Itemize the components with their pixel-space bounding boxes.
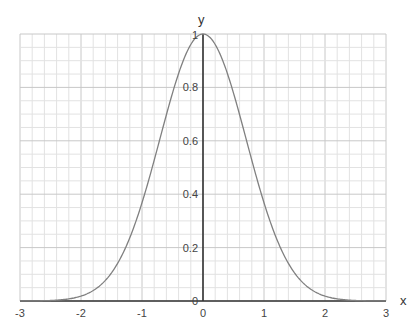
x-tick-labels: -3-2-10123	[15, 307, 389, 319]
y-tick-label: 0.2	[183, 242, 198, 254]
y-axis-label: y	[198, 12, 205, 27]
x-tick-label: 0	[200, 307, 206, 319]
y-tick-label: 1	[192, 29, 198, 41]
x-tick-label: 2	[322, 307, 328, 319]
x-tick-label: -2	[76, 307, 86, 319]
x-tick-label: -1	[137, 307, 147, 319]
y-tick-label: 0	[192, 295, 198, 307]
x-tick-label: 1	[261, 307, 267, 319]
chart-canvas: -3-2-10123 00.20.40.60.81 x y	[0, 0, 417, 330]
x-tick-label: 3	[383, 307, 389, 319]
x-axis-label: x	[400, 293, 407, 308]
x-tick-label: -3	[15, 307, 25, 319]
y-tick-label: 0.6	[183, 135, 198, 147]
y-tick-label: 0.4	[183, 188, 198, 200]
y-tick-label: 0.8	[183, 81, 198, 93]
